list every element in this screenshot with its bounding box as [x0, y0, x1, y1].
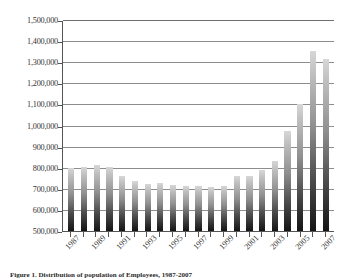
x-label-slot	[128, 238, 141, 268]
x-label-slot	[281, 238, 294, 268]
x-label-slot: 1987	[64, 238, 77, 268]
bar-slot	[269, 21, 282, 231]
y-axis-tick-label: 1,300,000	[2, 59, 58, 67]
bar	[119, 176, 125, 231]
bar-slot	[256, 21, 269, 231]
bar	[221, 186, 227, 231]
y-axis-tick-label: 1,100,000	[2, 101, 58, 109]
x-axis-tick	[159, 232, 160, 237]
x-axis-tick	[185, 232, 186, 237]
x-axis-tick	[83, 232, 84, 237]
bar-slot	[205, 21, 218, 231]
x-axis-tick	[312, 232, 313, 237]
x-axis-tick	[274, 232, 275, 237]
bar	[310, 51, 316, 231]
x-axis-tick	[95, 232, 96, 237]
y-axis-tick-label: 900,000	[2, 144, 58, 152]
y-axis-tick-label: 700,000	[2, 186, 58, 194]
figure-caption: Figure 1. Distribution of population of …	[10, 271, 335, 279]
bar	[157, 183, 163, 231]
bar-slot	[90, 21, 103, 231]
x-label-slot	[230, 238, 243, 268]
y-axis-tick-label: 1,400,000	[2, 38, 58, 46]
bar-slot	[243, 21, 256, 231]
bar	[68, 168, 74, 231]
x-label-slot: 2007	[319, 238, 332, 268]
y-axis-tick-label: 1,500,000	[2, 17, 58, 25]
x-axis-tick	[325, 232, 326, 237]
bar	[195, 186, 201, 231]
x-label-slot: 1989	[90, 238, 103, 268]
bar	[323, 59, 329, 231]
x-label-slot: 1997	[192, 238, 205, 268]
x-axis-tick	[108, 232, 109, 237]
x-label-slot	[255, 238, 268, 268]
x-label-slot: 2001	[243, 238, 256, 268]
x-label-slot	[153, 238, 166, 268]
x-label-slot: 2005	[294, 238, 307, 268]
bar	[183, 186, 189, 231]
y-axis-tick-label: 500,000	[2, 228, 58, 236]
bar	[208, 187, 214, 231]
x-label-slot: 1991	[115, 238, 128, 268]
bar	[272, 161, 278, 231]
x-axis-tick	[261, 232, 262, 237]
bar-slot	[294, 21, 307, 231]
x-axis-tick	[146, 232, 147, 237]
x-label-slot	[179, 238, 192, 268]
bar	[284, 131, 290, 231]
x-axis-tick	[236, 232, 237, 237]
x-label-slot	[77, 238, 90, 268]
bar-slot	[179, 21, 192, 231]
bar-slot	[192, 21, 205, 231]
bar-chart-figure: 500,000600,000700,000800,000900,0001,000…	[0, 0, 339, 280]
x-label-slot: 1995	[166, 238, 179, 268]
x-label-slot	[204, 238, 217, 268]
bar-series	[63, 21, 334, 231]
x-axis-tick	[134, 232, 135, 237]
x-label-slot: 1993	[141, 238, 154, 268]
bar-slot	[218, 21, 231, 231]
x-label-slot: 2003	[268, 238, 281, 268]
x-axis-labels: 1987198919911993199519971999200120032005…	[62, 238, 334, 268]
x-label-slot: 1999	[217, 238, 230, 268]
y-axis-tick-label: 1,000,000	[2, 123, 58, 131]
bar	[132, 181, 138, 231]
x-axis-tick	[172, 232, 173, 237]
bar	[170, 185, 176, 231]
bar-slot	[65, 21, 78, 231]
bar-slot	[78, 21, 91, 231]
bar	[106, 167, 112, 231]
bar	[81, 167, 87, 231]
bar-slot	[154, 21, 167, 231]
bar	[94, 165, 100, 231]
bar-slot	[116, 21, 129, 231]
bar-slot	[307, 21, 320, 231]
bar	[246, 176, 252, 231]
plot-area	[62, 21, 334, 232]
bar	[297, 104, 303, 231]
bar	[259, 170, 265, 231]
x-axis-tick	[210, 232, 211, 237]
bar-slot	[167, 21, 180, 231]
bar	[145, 184, 151, 231]
y-axis-tick-label: 1,200,000	[2, 80, 58, 88]
y-axis-tick-label: 600,000	[2, 207, 58, 215]
x-axis-tick	[223, 232, 224, 237]
x-label-slot	[102, 238, 115, 268]
bar-slot	[103, 21, 116, 231]
y-axis-tick-label: 800,000	[2, 165, 58, 173]
bar-slot	[319, 21, 332, 231]
bar-slot	[129, 21, 142, 231]
bar-slot	[141, 21, 154, 231]
bar-slot	[281, 21, 294, 231]
x-label-slot	[307, 238, 320, 268]
bar	[234, 176, 240, 231]
x-axis-tick	[287, 232, 288, 237]
bar-slot	[230, 21, 243, 231]
